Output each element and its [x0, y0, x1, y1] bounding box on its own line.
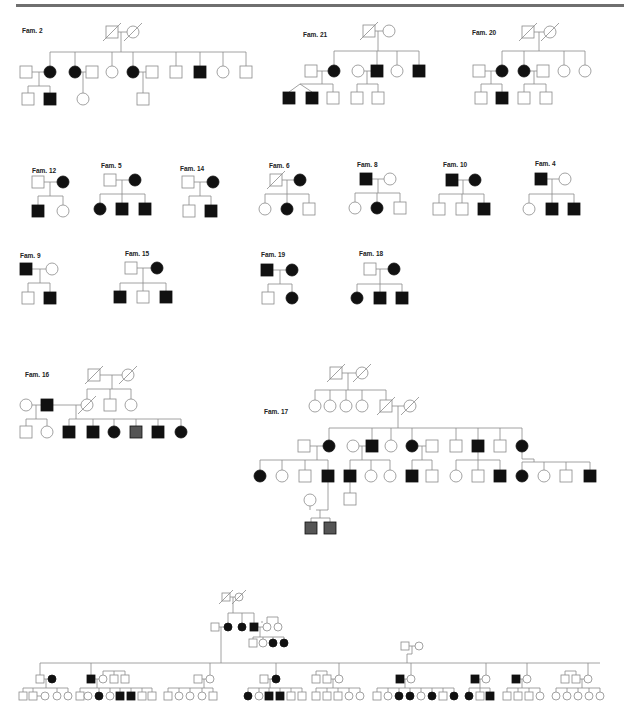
male-unaffected-icon [125, 262, 137, 274]
male-unaffected-icon [344, 493, 356, 505]
male-affected-icon [152, 426, 164, 438]
female-affected-icon [286, 292, 298, 304]
female-unaffected-icon [259, 639, 267, 647]
female-unaffected-icon [263, 623, 271, 631]
family-label: Fam. 8 [357, 161, 378, 168]
female-unaffected-icon [523, 203, 535, 215]
male-affected-icon [283, 92, 295, 104]
family-label: Fam. 18 [359, 250, 384, 257]
female-unaffected-icon [57, 205, 69, 217]
male-affected-icon [396, 675, 404, 683]
female-unaffected-icon [217, 66, 229, 78]
male-unaffected-icon [36, 675, 44, 683]
male-unaffected-icon [137, 93, 149, 105]
male-unaffected-icon [426, 440, 438, 452]
male-unaffected-icon [312, 675, 320, 683]
male-affected-icon [406, 470, 418, 482]
male-unaffected-icon [450, 440, 462, 452]
female-affected-icon [450, 692, 458, 700]
female-unaffected-icon [538, 470, 550, 482]
female-affected-icon [371, 202, 383, 214]
male-affected-icon [472, 440, 484, 452]
male-unaffected-icon [572, 675, 580, 683]
male-affected-icon [20, 263, 32, 275]
male-affected-icon [41, 399, 53, 411]
female-affected-icon [57, 176, 69, 188]
family-fam-21: Fam. 21 [283, 22, 425, 104]
male-unaffected-icon [29, 692, 37, 700]
male-unaffected-icon [194, 675, 202, 683]
female-affected-icon [388, 263, 400, 275]
family-fam-20: Fam. 20 [472, 23, 591, 104]
male-unaffected-icon [146, 66, 158, 78]
male-affected-icon [44, 93, 56, 105]
female-unaffected-icon [391, 65, 403, 77]
female-unaffected-icon [596, 692, 604, 700]
female-affected-icon [280, 639, 288, 647]
male-unaffected-icon [148, 692, 156, 700]
female-affected-icon [328, 65, 340, 77]
female-unaffected-icon [347, 440, 359, 452]
male-affected-icon [471, 675, 479, 683]
female-unaffected-icon [106, 692, 114, 700]
male-affected-icon [360, 173, 372, 185]
female-unaffected-icon [41, 692, 49, 700]
female-unaffected-icon [563, 692, 571, 700]
female-unaffected-icon [552, 692, 560, 700]
female-affected-icon [129, 174, 141, 186]
female-unaffected-icon [99, 675, 107, 683]
male-affected-icon [512, 675, 520, 683]
female-affected-icon [272, 675, 280, 683]
female-affected-icon [175, 426, 187, 438]
male-affected-icon [87, 426, 99, 438]
male-unaffected-icon [138, 692, 146, 700]
male-affected-icon [114, 291, 126, 303]
male-unaffected-icon [473, 65, 485, 77]
male-affected-icon [205, 205, 217, 217]
female-unaffected-icon [365, 470, 377, 482]
female-affected-icon [406, 440, 418, 452]
male-affected-icon [87, 675, 95, 683]
male-affected-icon [496, 92, 508, 104]
female-unaffected-icon [345, 692, 353, 700]
pedigree-figure: Fam. 2Fam. 21Fam. 20Fam. 12Fam. 5Fam. 14… [0, 0, 624, 701]
male-unaffected-icon [19, 692, 27, 700]
male-unaffected-icon [514, 692, 522, 700]
female-affected-icon [286, 264, 298, 276]
male-unaffected-icon [456, 203, 468, 215]
family-label: Fam. 14 [180, 165, 205, 172]
male-unaffected-icon [303, 203, 315, 215]
female-affected-icon [207, 176, 219, 188]
male-affected-icon [116, 203, 128, 215]
family-fam-17: Fam. 17 [254, 364, 596, 534]
male-unaffected-icon [372, 92, 384, 104]
male-affected-icon [32, 205, 44, 217]
family-label: Fam. 15 [125, 250, 150, 257]
male-affected-icon [160, 291, 172, 303]
family-label: Fam. 10 [443, 161, 468, 168]
male-affected-icon [194, 66, 206, 78]
female-unaffected-icon [356, 692, 364, 700]
male-unaffected-icon [287, 692, 295, 700]
female-unaffected-icon [536, 692, 544, 700]
family-fam-14: Fam. 14 [180, 165, 219, 217]
male-affected-icon [584, 470, 596, 482]
male-affected-icon [371, 65, 383, 77]
female-unaffected-icon [274, 623, 282, 631]
female-affected-icon [351, 292, 363, 304]
female-affected-icon [224, 623, 232, 631]
male-unaffected-icon [298, 692, 306, 700]
male-unaffected-icon [351, 92, 363, 104]
male-affected-icon [63, 426, 75, 438]
female-affected-icon [69, 66, 81, 78]
male-unaffected-icon [209, 692, 217, 700]
male-affected-icon [494, 470, 506, 482]
male-unaffected-icon [476, 692, 484, 700]
female-unaffected-icon [77, 93, 89, 105]
family-label: Fam. 20 [472, 29, 497, 36]
family-fam-2: Fam. 2 [20, 23, 252, 105]
female-affected-icon [465, 692, 473, 700]
female-unaffected-icon [20, 399, 32, 411]
female-unaffected-icon [41, 426, 53, 438]
male-unaffected-icon [439, 692, 447, 700]
